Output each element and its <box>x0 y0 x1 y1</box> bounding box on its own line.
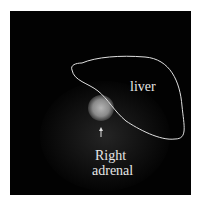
arrow-head-icon <box>99 127 103 131</box>
scintigraphy-image: liver Right adrenal <box>10 11 191 195</box>
right-adrenal-label-line2: adrenal <box>92 163 133 178</box>
right-adrenal-label-line1: Right <box>95 148 126 163</box>
liver-label: liver <box>130 79 156 94</box>
